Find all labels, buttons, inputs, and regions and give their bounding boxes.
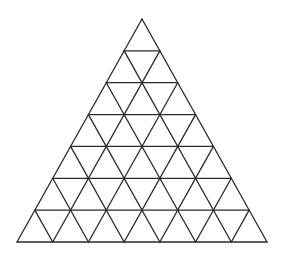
left-slant-line (106, 83, 195, 242)
left-slant-line (142, 19, 267, 242)
grid-lines (17, 19, 267, 242)
right-slant-line (17, 19, 142, 242)
right-slant-line (231, 210, 249, 242)
right-slant-line (160, 146, 214, 242)
right-slant-line (88, 83, 177, 242)
triangular-grid-diagram (0, 0, 285, 261)
left-slant-line (35, 210, 53, 242)
left-slant-line (71, 146, 125, 242)
